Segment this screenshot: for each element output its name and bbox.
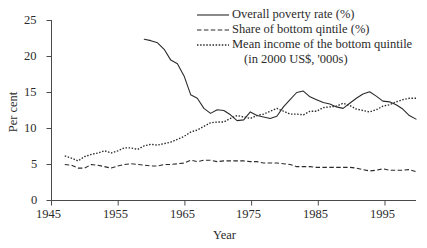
legend-item-mean-income: Mean income of the bottom quintile <box>196 37 424 52</box>
legend-swatch-dotted-icon <box>196 37 230 52</box>
y-axis-title: Per cent <box>6 91 20 132</box>
series-line-mean-income <box>65 98 416 161</box>
x-tick-label-1965: 1965 <box>170 208 195 221</box>
y-tick-label-0: 0 <box>31 194 37 207</box>
x-tick-label-1995: 1995 <box>370 208 395 221</box>
y-tick-label-5: 5 <box>31 158 37 171</box>
poverty-chart-figure: Per cent 0 5 10 15 20 25 1945 1955 1965 … <box>0 0 427 248</box>
y-tick-label-15: 15 <box>24 86 37 99</box>
legend-label-mean-income: Mean income of the bottom quintile <box>232 37 412 52</box>
chart-legend: Overall poverty rate (%) Share of bottom… <box>196 7 424 67</box>
x-axis-title: Year <box>213 228 236 243</box>
legend-swatch-dashed-icon <box>196 22 230 37</box>
legend-label-bottom-quintile-share: Share of bottom qintile (%) <box>232 22 369 37</box>
legend-item-overall-poverty-rate: Overall poverty rate (%) <box>196 7 424 22</box>
legend-swatch-solid-icon <box>196 7 230 22</box>
legend-label-overall-poverty-rate: Overall poverty rate (%) <box>232 7 355 22</box>
y-tick-label-25: 25 <box>24 14 37 27</box>
x-tick-label-1945: 1945 <box>36 208 61 221</box>
x-tick-label-1955: 1955 <box>103 208 128 221</box>
legend-item-bottom-quintile-share: Share of bottom qintile (%) <box>196 22 424 37</box>
x-tick-label-1975: 1975 <box>236 208 261 221</box>
y-tick-label-10: 10 <box>24 122 37 135</box>
x-axis-ticks <box>52 201 386 206</box>
y-tick-label-20: 20 <box>24 50 37 63</box>
series-line-bottom-quintile-share <box>65 160 416 172</box>
legend-label-mean-income-line2: (in 2000 US$, '000s) <box>196 52 424 67</box>
x-tick-label-1985: 1985 <box>303 208 328 221</box>
y-axis-ticks <box>47 21 52 201</box>
